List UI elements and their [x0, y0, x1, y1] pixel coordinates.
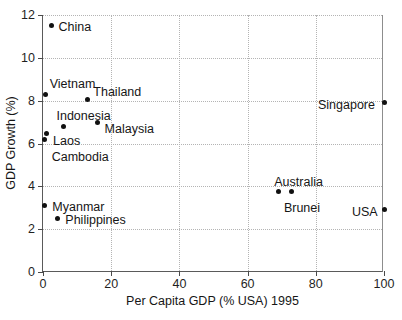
y-tick-mark	[38, 186, 43, 187]
y-tick-mark	[38, 144, 43, 145]
data-point	[44, 131, 49, 136]
data-point	[61, 124, 66, 129]
gridline-horizontal	[43, 186, 382, 187]
x-tick-label: 20	[104, 278, 118, 291]
data-point-label: Brunei	[284, 202, 320, 215]
x-tick-mark	[111, 271, 112, 276]
data-point	[382, 207, 387, 212]
data-point-label: Singapore	[318, 99, 375, 112]
data-point	[43, 92, 48, 97]
figure-caption	[0, 312, 402, 320]
data-point	[289, 189, 294, 194]
data-point	[49, 23, 54, 28]
data-point-label: Cambodia	[52, 151, 109, 164]
x-tick-mark	[316, 271, 317, 276]
x-tick-mark	[179, 271, 180, 276]
y-tick-mark	[38, 272, 43, 273]
data-point	[42, 203, 47, 208]
x-tick-mark	[248, 271, 249, 276]
data-point	[95, 120, 100, 125]
data-point-label: Myanmar	[52, 201, 104, 214]
y-axis-title: GDP Growth (%)	[5, 96, 18, 190]
y-tick-label: 12	[21, 9, 35, 22]
y-tick-mark	[38, 229, 43, 230]
y-tick-label: 4	[28, 180, 35, 193]
data-point-label: USA	[352, 206, 378, 219]
data-point	[85, 97, 90, 102]
data-point	[276, 189, 281, 194]
data-point	[42, 137, 47, 142]
y-tick-label: 2	[28, 223, 35, 236]
plot-area: 020406080100 024681012 ChinaVietnamThail…	[42, 15, 383, 272]
x-tick-label: 100	[374, 278, 395, 291]
x-axis-title: Per Capita GDP (% USA) 1995	[42, 295, 383, 308]
x-tick-mark	[384, 271, 385, 276]
x-tick-label: 60	[241, 278, 255, 291]
data-point-label: Thailand	[93, 86, 141, 99]
data-point-label: China	[59, 21, 92, 34]
data-point-label: Indonesia	[56, 110, 110, 123]
x-tick-label: 40	[172, 278, 186, 291]
y-tick-label: 0	[28, 266, 35, 279]
data-point-label: Vietnam	[50, 78, 96, 91]
gridline-horizontal	[43, 229, 382, 230]
y-tick-label: 8	[28, 94, 35, 107]
y-tick-mark	[38, 101, 43, 102]
gridline-horizontal	[43, 15, 382, 16]
x-tick-label: 80	[309, 278, 323, 291]
gridline-horizontal	[43, 58, 382, 59]
data-point	[55, 216, 60, 221]
y-tick-mark	[38, 15, 43, 16]
scatter-chart-figure: GDP Growth (%) Per Capita GDP (% USA) 19…	[0, 0, 402, 320]
y-tick-mark	[38, 58, 43, 59]
y-tick-label: 6	[28, 137, 35, 150]
y-tick-label: 10	[21, 52, 35, 65]
x-tick-mark	[43, 271, 44, 276]
data-point-label: Laos	[53, 135, 80, 148]
data-point-label: Philippines	[65, 214, 125, 227]
gridline-horizontal	[43, 144, 382, 145]
data-point-label: Australia	[274, 176, 323, 189]
data-point-label: Malaysia	[105, 123, 154, 136]
data-point	[382, 100, 387, 105]
x-tick-label: 0	[40, 278, 47, 291]
